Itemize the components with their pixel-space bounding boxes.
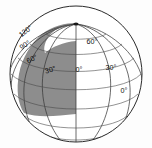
globe-graticule-figure: 120° 90° 60° 30° 0° 60° 30° 0°: [0, 0, 152, 148]
label-longitude-60-east: 60°: [87, 37, 98, 46]
north-pole-marker: [73, 23, 78, 26]
label-longitude-30-east: 30°: [106, 63, 117, 72]
globe-svg: 120° 90° 60° 30° 0° 60° 30° 0°: [0, 0, 152, 148]
label-longitude-0-east: 0°: [121, 86, 128, 95]
label-longitude-0-center: 0°: [76, 65, 83, 74]
